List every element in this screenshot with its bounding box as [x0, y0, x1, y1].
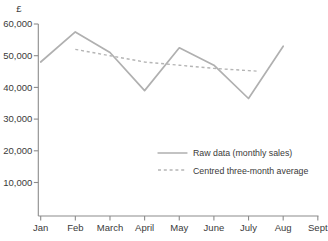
y-tick-label: 30,000: [3, 113, 32, 124]
y-tick-label: 60,000: [3, 18, 32, 29]
axes: [38, 24, 318, 216]
x-tick-label: March: [97, 222, 123, 233]
x-axis-ticks: JanFebMarchAprilMayJuneJulyAugSept: [33, 216, 328, 233]
chart-figure: £ 10,00020,00030,00040,00050,00060,000 J…: [0, 0, 328, 241]
average-series-line: [75, 49, 257, 71]
x-tick-label: Sept: [308, 222, 328, 233]
y-tick-label: 20,000: [3, 145, 32, 156]
y-tick-label: 50,000: [3, 50, 32, 61]
legend: Raw data (monthly sales) Centred three-m…: [158, 148, 309, 176]
legend-raw-label: Raw data (monthly sales): [193, 148, 292, 158]
plot-series: [41, 32, 284, 99]
x-tick-label: Feb: [67, 222, 83, 233]
y-tick-label: 10,000: [3, 177, 32, 188]
x-tick-label: Aug: [275, 222, 292, 233]
raw-data-series-line: [41, 32, 284, 99]
x-tick-label: June: [204, 222, 225, 233]
sales-line-chart: £ 10,00020,00030,00040,00050,00060,000 J…: [0, 0, 328, 241]
x-tick-label: Jan: [33, 222, 48, 233]
y-axis-ticks: 10,00020,00030,00040,00050,00060,000: [3, 18, 38, 188]
x-tick-label: April: [135, 222, 154, 233]
legend-average-label: Centred three-month average: [193, 166, 309, 176]
y-tick-label: 40,000: [3, 82, 32, 93]
x-tick-label: July: [240, 222, 257, 233]
x-tick-label: May: [170, 222, 188, 233]
currency-axis-label: £: [16, 3, 22, 14]
